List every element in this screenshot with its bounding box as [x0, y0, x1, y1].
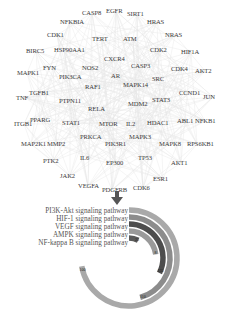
gene-node: RELA [88, 106, 105, 113]
gene-node: JUN [203, 94, 215, 101]
pathway-radial-chart: 100110135825 PI3K-Akt signaling pathway … [0, 205, 229, 328]
gene-node: PPARG [30, 117, 50, 124]
gene-node: RAF1 [85, 84, 101, 91]
gene-node: ESR1 [153, 176, 168, 183]
gene-node: AR [111, 73, 120, 80]
gene-node: STAT1 [62, 120, 80, 127]
gene-node: PIK3CA [59, 74, 81, 81]
gene-node: STAT3 [152, 97, 170, 104]
gene-node: ABL1 [177, 118, 193, 125]
gene-node: HIF1A [181, 49, 199, 56]
gene-node: HSP90AA1 [54, 47, 85, 54]
gene-node: TGFB1 [29, 90, 49, 97]
gene-node: MDM2 [128, 101, 147, 108]
gene-node: TNF [16, 95, 28, 102]
svg-text:100: 100 [79, 267, 85, 272]
gene-network: CASP8EGFRSIRT1NFKBIAHRASCDK1TERTATMNRASB… [0, 0, 229, 190]
svg-text:135: 135 [157, 268, 163, 273]
svg-text:25: 25 [135, 237, 139, 242]
gene-node: CXCR4 [104, 56, 125, 63]
gene-node: EGFR [106, 8, 122, 15]
gene-node: TERT [92, 36, 108, 43]
gene-node: SRC [152, 76, 164, 83]
gene-node: NFKB1 [195, 118, 215, 125]
svg-text:110: 110 [140, 294, 146, 299]
gene-node: CASP8 [82, 10, 101, 17]
gene-node: SIRT1 [127, 11, 144, 18]
gene-node: MAP2K1 [21, 141, 46, 148]
gene-node: EP300 [106, 160, 123, 167]
gene-node: AKT2 [195, 68, 211, 75]
gene-node: NOS2 [82, 65, 98, 72]
gene-node: MAPK3 [129, 134, 151, 141]
gene-node: HRAS [147, 19, 164, 26]
gene-node: MAPK8 [159, 141, 181, 148]
gene-node: MAPK1 [17, 70, 39, 77]
gene-node: ATM [123, 36, 137, 43]
down-arrow-icon [111, 191, 123, 205]
gene-node: FYN [43, 65, 56, 72]
gene-node: AKT1 [171, 160, 187, 167]
gene-node: MMP2 [47, 141, 65, 148]
gene-node: CDK2 [150, 47, 167, 54]
gene-node: TP53 [138, 155, 152, 162]
gene-node: BIRC5 [26, 48, 44, 55]
svg-text:8: 8 [154, 250, 156, 255]
gene-node: NFKBIA [60, 19, 84, 26]
gene-node: PTPN11 [59, 98, 81, 105]
gene-node: NRAS [165, 32, 182, 39]
gene-node: CDK1 [47, 32, 64, 39]
gene-node: CDK6 [133, 185, 150, 192]
gene-node: CCND1 [179, 90, 200, 97]
gene-node: IL2 [126, 121, 135, 128]
gene-node: PTK2 [43, 158, 58, 165]
gene-node: CASP3 [131, 63, 150, 70]
gene-node: IL6 [80, 155, 89, 162]
gene-node: CDK4 [171, 66, 188, 73]
gene-node: HDAC1 [147, 120, 168, 127]
gene-node: VEGFA [78, 183, 99, 190]
gene-node: PIK3R1 [105, 141, 126, 148]
gene-node: PRKCA [80, 134, 102, 141]
gene-node: JAK2 [60, 173, 75, 180]
gene-node: RPS6KB1 [187, 141, 214, 148]
gene-node: MAPK14 [123, 82, 148, 89]
legend-item-nfkb: NF-kappa B signaling pathway [38, 240, 128, 247]
gene-node: MTOR [99, 121, 118, 128]
